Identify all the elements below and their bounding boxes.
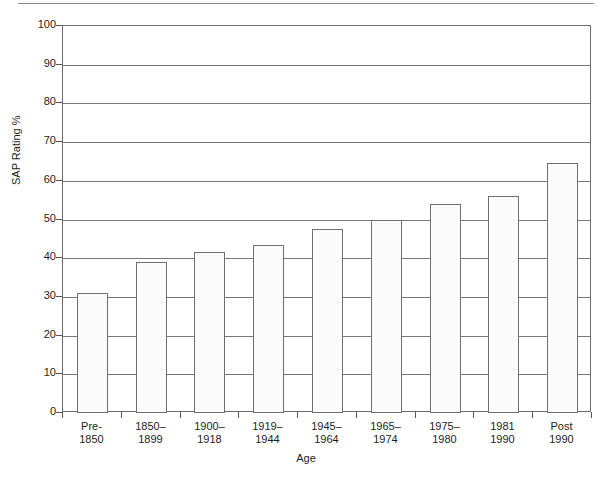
y-tick-label: 40 [16, 251, 56, 262]
gridline [63, 142, 590, 143]
y-tick-mark [56, 335, 62, 336]
x-tick-mark [238, 412, 239, 418]
y-tick-mark [56, 257, 62, 258]
y-tick-mark [56, 25, 62, 26]
y-tick-mark [56, 296, 62, 297]
x-tick-mark [591, 412, 592, 418]
y-tick-mark [56, 219, 62, 220]
x-tick-mark [415, 412, 416, 418]
gridline [63, 65, 590, 66]
y-tick-label: 70 [16, 135, 56, 146]
x-tick-label: 1981 1990 [473, 420, 532, 446]
x-tick-label: 1975– 1980 [415, 420, 474, 446]
plot-area [62, 25, 591, 412]
y-tick-label: 90 [16, 58, 56, 69]
y-tick-mark [56, 373, 62, 374]
bar [312, 229, 343, 413]
x-tick-mark [532, 412, 533, 418]
bar [488, 196, 519, 413]
x-tick-mark [297, 412, 298, 418]
y-tick-mark [56, 180, 62, 181]
x-tick-mark [180, 412, 181, 418]
bar-chart: SAP Rating % 0102030405060708090100 Pre-… [0, 0, 612, 478]
x-tick-mark [121, 412, 122, 418]
y-tick-mark [56, 102, 62, 103]
x-tick-label: 1919– 1944 [238, 420, 297, 446]
gridline [63, 181, 590, 182]
x-axis-title: Age [0, 452, 612, 464]
x-tick-label: 1900– 1918 [180, 420, 239, 446]
x-tick-mark [473, 412, 474, 418]
bar [430, 204, 461, 413]
bar [547, 163, 578, 413]
bar [371, 220, 402, 413]
y-tick-mark [56, 141, 62, 142]
y-tick-label: 80 [16, 96, 56, 107]
x-tick-label: 1945– 1964 [297, 420, 356, 446]
y-tick-label: 50 [16, 213, 56, 224]
gridline [63, 103, 590, 104]
bar [136, 262, 167, 413]
y-tick-label: 100 [16, 19, 56, 30]
x-tick-label: Pre- 1850 [62, 420, 121, 446]
y-axis-ticks: 0102030405060708090100 [12, 0, 56, 478]
y-tick-mark [56, 64, 62, 65]
x-tick-label: Post 1990 [532, 420, 591, 446]
x-tick-mark [356, 412, 357, 418]
x-tick-label: 1850– 1899 [121, 420, 180, 446]
y-tick-label: 30 [16, 290, 56, 301]
bar [253, 245, 284, 413]
y-tick-label: 20 [16, 329, 56, 340]
y-tick-label: 10 [16, 367, 56, 378]
y-tick-mark [56, 412, 62, 413]
y-tick-label: 0 [16, 406, 56, 417]
y-tick-label: 60 [16, 174, 56, 185]
x-tick-label: 1965– 1974 [356, 420, 415, 446]
bar [77, 293, 108, 413]
x-tick-mark [62, 412, 63, 418]
bar [194, 252, 225, 413]
